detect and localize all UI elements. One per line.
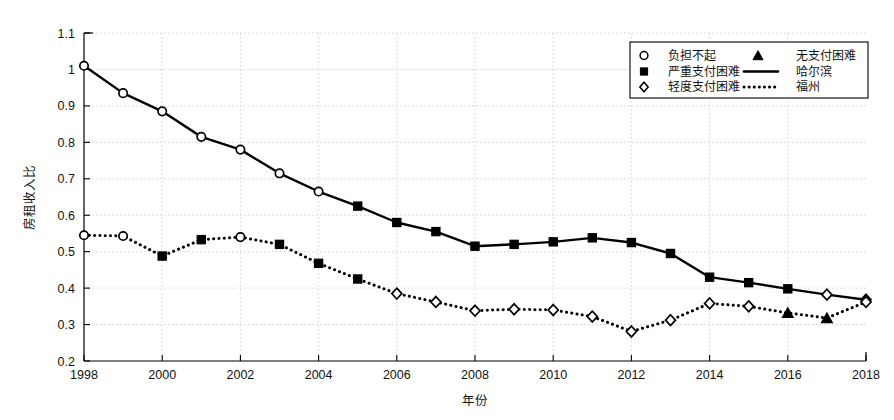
data-point-哈尔滨-1998: [80, 62, 88, 70]
y-tick-label-0.3: 0.3: [58, 318, 75, 332]
y-tick-label-0.2: 0.2: [58, 355, 75, 369]
x-tick-label-2004: 2004: [305, 368, 333, 382]
x-tick-label-2012: 2012: [617, 368, 645, 382]
legend-marker-circle: [640, 52, 648, 60]
data-point-哈尔滨-2003: [275, 169, 283, 177]
data-point-福州-1999: [119, 232, 127, 240]
data-point-哈尔滨-2014: [706, 273, 714, 281]
data-point-哈尔滨-2009: [510, 240, 518, 248]
y-tick-label-0.9: 0.9: [58, 99, 75, 113]
x-tick-label-2014: 2014: [696, 368, 724, 382]
x-tick-label-2018: 2018: [852, 368, 880, 382]
data-point-福州-1998: [80, 231, 88, 239]
data-point-福州-2002: [236, 233, 244, 241]
x-tick-label-2000: 2000: [148, 368, 176, 382]
data-point-哈尔滨-2010: [549, 238, 557, 246]
y-tick-label-0.6: 0.6: [58, 209, 75, 223]
x-tick-label-2010: 2010: [539, 368, 567, 382]
data-point-哈尔滨-2008: [471, 242, 479, 250]
data-point-福州-2000: [158, 252, 166, 260]
legend-label-哈尔滨: 哈尔滨: [796, 64, 832, 79]
legend-label-福州: 福州: [796, 79, 820, 94]
y-tick-label-1.1: 1.1: [58, 27, 75, 41]
x-tick-label-1998: 1998: [70, 368, 98, 382]
data-point-哈尔滨-2001: [197, 133, 205, 141]
y-tick-label-0.7: 0.7: [58, 172, 75, 186]
x-tick-label-2008: 2008: [461, 368, 489, 382]
legend-label-负担不起: 负担不起: [668, 49, 716, 63]
data-point-哈尔滨-2000: [158, 107, 166, 115]
data-point-哈尔滨-2004: [314, 187, 322, 195]
data-point-哈尔滨-2005: [354, 202, 362, 210]
data-point-福州-2003: [275, 240, 283, 248]
legend-label-严重支付困难: 严重支付困难: [668, 65, 740, 79]
x-tick-label-2002: 2002: [226, 368, 254, 382]
data-point-福州-2001: [197, 236, 205, 244]
data-point-哈尔滨-2006: [393, 218, 401, 226]
data-point-哈尔滨-2011: [588, 234, 596, 242]
x-tick-label-2006: 2006: [383, 368, 411, 382]
data-point-福州-2004: [315, 259, 323, 267]
data-point-哈尔滨-2007: [432, 228, 440, 236]
x-axis-title: 年份: [462, 394, 488, 408]
chart-container: 0.20.30.40.50.60.70.80.911.1199820002002…: [0, 0, 894, 420]
legend: 负担不起无支付困难严重支付困难哈尔滨轻度支付困难福州: [630, 42, 868, 98]
data-point-哈尔滨-1999: [119, 89, 127, 97]
y-tick-label-0.4: 0.4: [58, 282, 75, 296]
data-point-哈尔滨-2002: [236, 145, 244, 153]
y-axis-title: 房租收入比: [22, 165, 37, 230]
data-point-哈尔滨-2016: [784, 285, 792, 293]
legend-label-无支付困难: 无支付困难: [796, 49, 856, 63]
data-point-哈尔滨-2013: [666, 249, 674, 257]
y-tick-label-1: 1: [68, 63, 75, 77]
line-chart: 0.20.30.40.50.60.70.80.911.1199820002002…: [0, 0, 894, 420]
data-point-哈尔滨-2015: [745, 279, 753, 287]
data-point-哈尔滨-2012: [627, 238, 635, 246]
legend-marker-square: [640, 68, 647, 75]
legend-label-轻度支付困难: 轻度支付困难: [668, 79, 740, 94]
x-tick-label-2016: 2016: [774, 368, 802, 382]
data-point-福州-2005: [354, 275, 362, 283]
y-tick-label-0.5: 0.5: [58, 245, 75, 259]
y-tick-label-0.8: 0.8: [58, 136, 75, 150]
